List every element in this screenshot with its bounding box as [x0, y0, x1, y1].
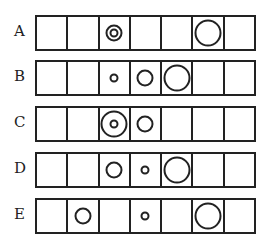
grid-cell [162, 200, 193, 232]
grid-cell [162, 62, 193, 94]
cell-strip [35, 152, 256, 188]
grid-cell [225, 17, 254, 49]
circle-icon-medium [137, 116, 154, 133]
option-row-b: B [0, 60, 266, 94]
cell-strip [35, 60, 256, 96]
grid-cell [100, 17, 131, 49]
option-label: B [14, 67, 25, 85]
grid-cell [131, 200, 162, 232]
grid-cell [100, 108, 131, 140]
circle-icon-large [163, 65, 190, 92]
circle-icon-small [141, 166, 150, 175]
option-label: C [14, 113, 25, 131]
grid-cell [193, 200, 224, 232]
grid-cell [225, 108, 254, 140]
grid-cell [100, 62, 131, 94]
grid-cell [131, 62, 162, 94]
circle-icon-medium [106, 162, 123, 179]
grid-cell [225, 154, 254, 186]
grid-cell [37, 17, 68, 49]
circle-icon-large [195, 20, 222, 47]
grid-cell [100, 200, 131, 232]
grid-cell [162, 154, 193, 186]
grid-cell [131, 108, 162, 140]
grid-cell [193, 108, 224, 140]
option-label: E [14, 205, 25, 223]
circle-icon-medium [106, 25, 123, 42]
grid-cell [68, 62, 99, 94]
circle-icon-small [110, 74, 119, 83]
option-row-c: C [0, 106, 266, 140]
option-row-e: E [0, 198, 266, 232]
grid-cell [193, 62, 224, 94]
circle-icon-medium [137, 70, 154, 87]
grid-cell [162, 17, 193, 49]
cell-strip [35, 198, 256, 234]
option-label: A [14, 22, 25, 40]
grid-cell [37, 154, 68, 186]
option-row-a: A [0, 15, 266, 49]
grid-cell [131, 17, 162, 49]
grid-cell [37, 62, 68, 94]
grid-cell [68, 200, 99, 232]
circle-icon-small [141, 212, 150, 221]
grid-cell [162, 108, 193, 140]
circle-icon-large [101, 111, 128, 138]
circle-icon-large [163, 157, 190, 184]
grid-cell [37, 108, 68, 140]
grid-cell [225, 62, 254, 94]
circle-icon-large [195, 203, 222, 230]
cell-strip [35, 15, 256, 51]
circle-icon-medium [74, 208, 91, 225]
grid-cell [68, 17, 99, 49]
grid-cell [37, 200, 68, 232]
grid-cell [131, 154, 162, 186]
grid-cell [225, 200, 254, 232]
grid-cell [68, 154, 99, 186]
option-row-d: D [0, 152, 266, 186]
grid-cell [68, 108, 99, 140]
option-label: D [14, 159, 26, 177]
cell-strip [35, 106, 256, 142]
grid-cell [100, 154, 131, 186]
grid-cell [193, 17, 224, 49]
grid-cell [193, 154, 224, 186]
